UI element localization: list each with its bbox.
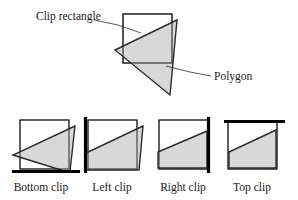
bottom-clip-polygon	[13, 126, 75, 171]
main-polygon	[115, 20, 177, 95]
stage-bottom-clip-group: Bottom clip	[12, 120, 80, 194]
left-clip-caption: Left clip	[92, 181, 132, 194]
top-clip-caption: Top clip	[233, 181, 271, 194]
main-figure-group: Clip rectangle Polygon	[36, 10, 253, 95]
right-clip-caption: Right clip	[160, 181, 206, 194]
stage-right-clip-group: Right clip	[158, 117, 209, 194]
figure-canvas: Clip rectangle Polygon Bottom clip Left …	[0, 0, 298, 200]
left-clip-polygon	[86, 126, 143, 170]
stage-top-clip-group: Top clip	[224, 122, 285, 195]
right-clip-polygon	[158, 131, 207, 168]
polygon-clipping-diagram: Clip rectangle Polygon Bottom clip Left …	[0, 0, 298, 200]
bottom-clip-caption: Bottom clip	[14, 181, 69, 194]
clip-rectangle-label: Clip rectangle	[36, 10, 101, 23]
top-clip-polygon	[229, 130, 276, 168]
stage-left-clip-group: Left clip	[86, 117, 144, 194]
clip-rectangle-leader-line	[94, 20, 141, 33]
polygon-label: Polygon	[214, 70, 253, 83]
